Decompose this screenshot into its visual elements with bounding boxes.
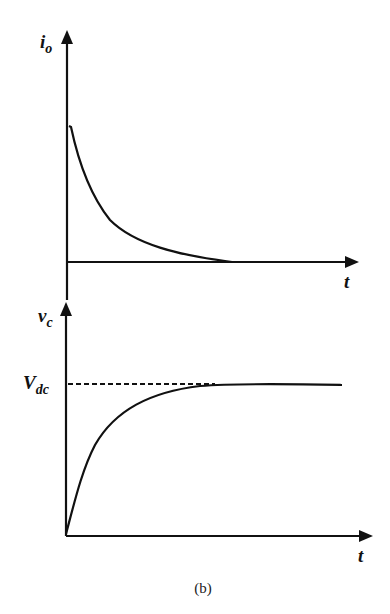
bottom-y-label: vc [38, 305, 53, 330]
vdc-label: Vdc [23, 372, 50, 397]
bottom-x-label: t [358, 545, 364, 566]
diagram-canvas: io t vc Vdc t (b) [0, 0, 390, 614]
bottom-y-axis-arrow-icon [60, 302, 72, 316]
current-decay-curve [69, 126, 232, 262]
voltage-rise-curve [66, 384, 342, 534]
top-x-label: t [344, 271, 350, 292]
top-y-label: io [40, 31, 52, 56]
top-x-axis-arrow-icon [345, 256, 359, 268]
bottom-plot: vc Vdc t [23, 302, 373, 566]
top-y-axis-arrow-icon [61, 30, 73, 44]
bottom-x-axis-arrow-icon [359, 530, 373, 542]
top-plot: io t [40, 30, 359, 300]
figure-caption: (b) [194, 580, 212, 597]
